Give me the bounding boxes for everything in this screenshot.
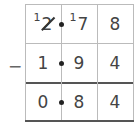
grid-line-right [133, 4, 134, 120]
minus-sign: − [8, 56, 22, 76]
carry-digit: 1 [70, 11, 77, 24]
difference-tenths: 8 [61, 83, 97, 121]
subtrahend-tenths: 9 [61, 44, 97, 82]
struck-digit: 2 [42, 14, 53, 34]
decimal-point-icon [59, 61, 64, 66]
subtrahend-ones: 1 [25, 44, 61, 82]
minuend-tenths: 1 7 [61, 5, 97, 43]
difference-ones: 0 [25, 83, 61, 121]
decimal-point-icon [59, 100, 64, 105]
minuend-hundredths: 8 [97, 5, 133, 43]
subtraction-grid: 1 2 1 7 8 1 9 4 0 8 4 [25, 4, 134, 121]
subtrahend-hundredths: 4 [97, 44, 133, 82]
carry-digit: 1 [34, 11, 41, 24]
decimal-point-icon [59, 22, 64, 27]
difference-hundredths: 4 [97, 83, 133, 121]
minuend-ones: 1 2 [25, 5, 61, 43]
digit: 7 [78, 14, 89, 34]
